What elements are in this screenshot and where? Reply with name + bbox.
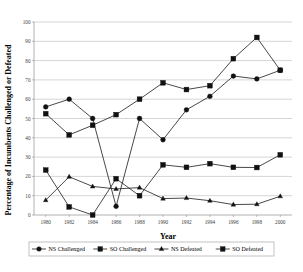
legend-label: SO Challenged — [110, 246, 147, 252]
data-point-marker — [137, 193, 142, 198]
data-point-marker — [184, 165, 189, 170]
x-tick-label: 1992 — [181, 219, 192, 225]
x-tick-label: 1996 — [228, 219, 239, 225]
data-point-marker — [114, 112, 119, 117]
data-point-marker — [90, 123, 95, 128]
x-axis-label: Year — [160, 232, 176, 241]
data-point-marker — [161, 80, 166, 85]
y-tick-label: 20 — [25, 173, 31, 179]
data-point-marker — [37, 247, 42, 252]
legend-item-ns-challenged[interactable]: NS Challenged — [32, 246, 85, 252]
incumbents-challenged-line-chart: 0102030405060708090100 19801982198419861… — [0, 0, 303, 272]
data-point-marker — [231, 165, 236, 170]
data-point-marker — [114, 204, 119, 209]
data-point-marker — [254, 35, 259, 40]
data-point-marker — [278, 68, 283, 73]
data-point-marker — [208, 94, 213, 99]
legend-label: SO Defeated — [232, 246, 263, 252]
data-point-marker — [220, 247, 225, 252]
y-tick-label: 50 — [25, 116, 31, 122]
data-point-marker — [254, 77, 259, 82]
data-point-marker — [137, 97, 142, 102]
data-point-marker — [231, 56, 236, 61]
y-tick-label: 30 — [25, 154, 31, 160]
chart-background — [0, 0, 303, 272]
y-tick-label: 10 — [25, 193, 31, 199]
x-tick-label: 1994 — [205, 219, 216, 225]
data-point-marker — [43, 105, 48, 110]
data-point-marker — [67, 133, 72, 138]
data-point-marker — [231, 74, 236, 79]
data-point-marker — [90, 213, 95, 218]
data-point-marker — [254, 165, 259, 170]
data-point-marker — [184, 107, 189, 112]
y-tick-label: 40 — [25, 135, 31, 141]
y-tick-label: 100 — [23, 19, 31, 25]
data-point-marker — [67, 97, 72, 102]
data-point-marker — [67, 204, 72, 209]
x-tick-label: 1986 — [111, 219, 122, 225]
data-point-marker — [43, 111, 48, 116]
x-tick-label: 1988 — [134, 219, 145, 225]
data-point-marker — [114, 176, 119, 181]
legend-label: NS Challenged — [49, 246, 86, 252]
x-tick-label: 2000 — [275, 219, 286, 225]
data-point-marker — [161, 137, 166, 142]
y-axis-label: Percentage of Incumbents Challenged or D… — [4, 44, 13, 216]
data-point-marker — [90, 116, 95, 121]
data-point-marker — [208, 83, 213, 88]
legend-label: NS Defeated — [171, 246, 202, 252]
x-tick-label: 1998 — [252, 219, 263, 225]
y-tick-label: 80 — [25, 58, 31, 64]
data-point-marker — [184, 87, 189, 92]
legend: NS ChallengedSO ChallengedNS DefeatedSO … — [29, 242, 274, 256]
x-tick-label: 1980 — [41, 219, 52, 225]
chart-container: 0102030405060708090100 19801982198419861… — [0, 0, 303, 272]
legend-item-so-challenged[interactable]: SO Challenged — [93, 246, 146, 252]
x-tick-label: 1982 — [64, 219, 75, 225]
data-point-marker — [98, 247, 103, 252]
y-tick-label: 70 — [25, 77, 31, 83]
x-tick-label: 1990 — [158, 219, 169, 225]
data-point-marker — [137, 116, 142, 121]
x-tick-label: 1984 — [87, 219, 98, 225]
data-point-marker — [208, 161, 213, 166]
data-point-marker — [43, 168, 48, 173]
y-tick-label: 60 — [25, 96, 31, 102]
data-point-marker — [161, 162, 166, 167]
y-tick-label: 90 — [25, 38, 31, 44]
legend-item-so-defeated[interactable]: SO Defeated — [216, 246, 263, 252]
data-point-marker — [278, 152, 283, 157]
y-tick-label: 0 — [28, 212, 31, 218]
